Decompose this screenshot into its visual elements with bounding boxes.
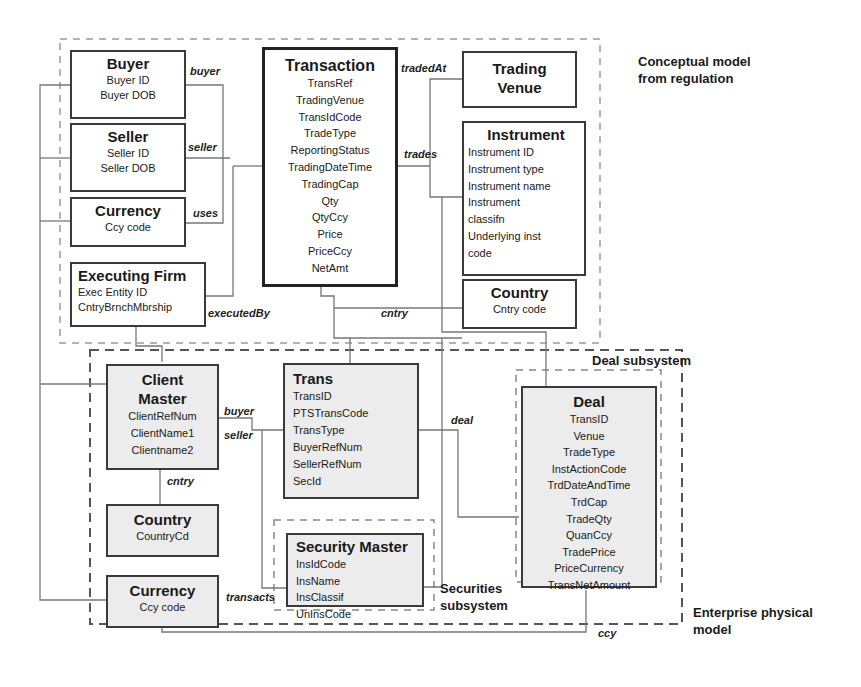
entity-attr: Instrument (468, 194, 584, 211)
entity-attr: TransIdCode (265, 109, 395, 126)
entity-title: Buyer (72, 54, 184, 73)
rel-label-phys-seller: seller (224, 429, 253, 441)
rel-label-phys-cntry: cntry (167, 475, 194, 487)
entity-title: Client (108, 370, 217, 389)
securities-subsystem-label: Securities subsystem (440, 580, 508, 614)
rel-label-cntry: cntry (381, 307, 408, 319)
entity-attr: InstActionCode (523, 461, 655, 478)
entity-deal[interactable]: Deal TransID Venue TradeType InstActionC… (521, 386, 657, 588)
entity-attr: SellerRefNum (293, 456, 417, 473)
rel-label-tradedAt: tradedAt (401, 62, 446, 74)
entity-attr: TransID (523, 411, 655, 428)
entity-attr: SecId (293, 473, 417, 490)
entity-currency-physical[interactable]: Currency Ccy code (106, 575, 219, 628)
entity-attr: BuyerRefNum (293, 439, 417, 456)
entity-attr: Seller DOB (72, 161, 184, 176)
entity-attr: Buyer DOB (72, 88, 184, 103)
entity-attr: InsName (296, 573, 422, 590)
entity-attr: CountryCd (108, 529, 217, 544)
entity-seller[interactable]: Seller Seller ID Seller DOB (70, 123, 186, 192)
entity-attr: TrdDateAndTime (523, 477, 655, 494)
entity-attr: PriceCurrency (523, 560, 655, 577)
entity-title: Currency (108, 581, 217, 600)
entity-client-master[interactable]: Client Master ClientRefNum ClientName1 C… (106, 364, 219, 470)
entity-attr: TradeType (523, 444, 655, 461)
entity-security-master[interactable]: Security Master InsIdCode InsName InsCla… (286, 533, 424, 607)
entity-title: Venue (464, 78, 575, 97)
entity-attr: code (468, 245, 584, 262)
entity-attr: Seller ID (72, 146, 184, 161)
entity-title: Instrument (468, 125, 584, 144)
entity-attr: Qty (265, 193, 395, 210)
entity-attr: PriceCcy (265, 243, 395, 260)
entity-attr: TransNetAmount (523, 577, 655, 594)
entity-attr: TransRef (265, 75, 395, 92)
entity-transaction[interactable]: Transaction TransRef TradingVenue TransI… (262, 47, 398, 287)
entity-country[interactable]: Country Cntry code (462, 279, 577, 329)
entity-title: Currency (72, 201, 184, 220)
entity-title: Deal (523, 392, 655, 411)
entity-attr: Clientname2 (108, 442, 217, 459)
entity-title: Executing Firm (78, 266, 204, 285)
entity-attr: TradingDateTime (265, 159, 395, 176)
entity-attr: Venue (523, 428, 655, 445)
entity-attr: TradeQty (523, 511, 655, 528)
entity-title: Seller (72, 127, 184, 146)
label-line: Enterprise physical (693, 604, 813, 621)
entity-executing-firm[interactable]: Executing Firm Exec Entity ID CntryBrnch… (70, 262, 206, 327)
entity-attr: TradePrice (523, 544, 655, 561)
entity-attr: UnInsCode (296, 606, 422, 623)
entity-attr: TradeType (265, 125, 395, 142)
rel-label-phys-buyer: buyer (224, 405, 254, 417)
entity-attr: Ccy code (72, 220, 184, 235)
entity-instrument[interactable]: Instrument Instrument ID Instrument type… (462, 121, 586, 276)
rel-label-uses: uses (193, 207, 218, 219)
label-line: Securities (440, 580, 508, 597)
entity-attr: InsIdCode (296, 556, 422, 573)
entity-attr: ClientName1 (108, 425, 217, 442)
label-line: Conceptual model (638, 53, 751, 70)
entity-title: Country (108, 510, 217, 529)
entity-title: Security Master (296, 537, 422, 556)
label-line: model (693, 621, 813, 638)
entity-attr: classifn (468, 211, 584, 228)
entity-attr: CntryBrnchMbrship (78, 300, 204, 315)
rel-label-executedBy: executedBy (208, 307, 270, 319)
rel-label-transacts: transacts (226, 591, 275, 603)
entity-attr: ReportingStatus (265, 142, 395, 159)
label-line: subsystem (440, 597, 508, 614)
entity-title: Trans (293, 369, 417, 388)
entity-attr: NetAmt (265, 260, 395, 277)
entity-trans[interactable]: Trans TransID PTSTransCode TransType Buy… (283, 363, 419, 499)
entity-attr: Ccy code (108, 600, 217, 615)
entity-attr: PTSTransCode (293, 405, 417, 422)
entity-attr: ClientRefNum (108, 408, 217, 425)
entity-attr: InsClassif (296, 589, 422, 606)
label-line: from regulation (638, 70, 751, 87)
entity-attr: TradingCap (265, 176, 395, 193)
entity-attr: Underlying inst (468, 228, 584, 245)
entity-attr: Cntry code (464, 302, 575, 317)
entity-attr: TrdCap (523, 494, 655, 511)
entity-attr: QtyCcy (265, 209, 395, 226)
entity-buyer[interactable]: Buyer Buyer ID Buyer DOB (70, 50, 186, 119)
entity-title: Transaction (265, 56, 395, 75)
rel-label-ccy: ccy (598, 627, 616, 639)
entity-attr: Buyer ID (72, 73, 184, 88)
entity-country-physical[interactable]: Country CountryCd (106, 504, 219, 557)
entity-attr: Instrument type (468, 161, 584, 178)
entity-attr: Instrument name (468, 178, 584, 195)
enterprise-physical-label: Enterprise physical model (693, 604, 813, 638)
entity-currency[interactable]: Currency Ccy code (70, 197, 186, 247)
entity-attr: TransID (293, 388, 417, 405)
conceptual-model-label: Conceptual model from regulation (638, 53, 751, 87)
entity-attr: TransType (293, 422, 417, 439)
entity-attr: Instrument ID (468, 144, 584, 161)
rel-label-seller: seller (188, 141, 217, 153)
rel-label-trades: trades (404, 148, 437, 160)
entity-title: Master (108, 389, 217, 408)
deal-subsystem-label: Deal subsystem (592, 352, 691, 369)
entity-attr: Exec Entity ID (78, 285, 204, 300)
entity-trading-venue[interactable]: Trading Venue (462, 51, 577, 108)
rel-label-buyer: buyer (190, 65, 220, 77)
